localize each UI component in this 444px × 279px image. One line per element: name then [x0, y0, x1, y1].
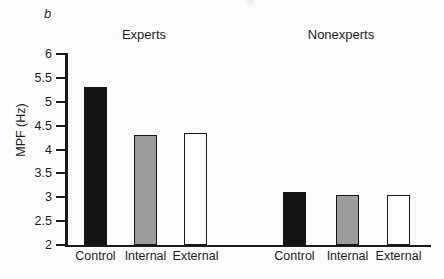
- y-tick-mark: [56, 101, 65, 103]
- y-tick-label: 5: [2, 94, 52, 110]
- y-tick-label: 4.5: [2, 118, 52, 134]
- x-axis-line: [65, 245, 431, 247]
- panel-label: b: [44, 6, 51, 21]
- bar-experts-control: [84, 87, 107, 245]
- group-heading-nonexperts: Nonexperts: [271, 27, 411, 42]
- x-category-label-experts-external: External: [164, 249, 228, 263]
- y-tick-mark: [56, 220, 65, 222]
- group-heading-experts: Experts: [74, 27, 214, 42]
- bar-experts-external: [184, 133, 207, 245]
- y-tick-mark: [56, 77, 65, 79]
- bar-nonexperts-external: [387, 195, 410, 245]
- bar-experts-internal: [134, 135, 157, 245]
- y-tick-label: 6: [2, 46, 52, 62]
- y-axis-line: [65, 53, 68, 247]
- y-tick-label: 3.5: [2, 165, 52, 181]
- y-tick-mark: [56, 53, 65, 55]
- figure-panel-b: b Experts Nonexperts MPF (Hz) 22.533.544…: [0, 0, 444, 279]
- y-tick-mark: [56, 125, 65, 127]
- y-tick-label: 5.5: [2, 70, 52, 86]
- y-tick-mark: [56, 172, 65, 174]
- bar-nonexperts-internal: [336, 195, 359, 245]
- y-tick-label: 3: [2, 189, 52, 205]
- x-category-label-nonexperts-external: External: [367, 249, 431, 263]
- bar-nonexperts-control: [283, 192, 306, 245]
- y-tick-mark: [56, 196, 65, 198]
- y-tick-label: 2: [2, 237, 52, 253]
- y-tick-label: 2.5: [2, 213, 52, 229]
- y-tick-mark: [56, 149, 65, 151]
- y-tick-label: 4: [2, 142, 52, 158]
- y-tick-mark: [56, 244, 65, 246]
- scan-artifact-smudge: [245, 0, 256, 8]
